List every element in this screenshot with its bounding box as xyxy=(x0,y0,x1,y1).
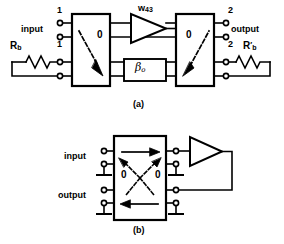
input-label-b: input xyxy=(64,152,86,161)
beta-label: βo xyxy=(135,62,146,74)
output-label-a: output xyxy=(231,25,259,34)
amplifier-triangle-a xyxy=(131,14,166,43)
figure-container: 1 1 input 2 2 output Rb R′b 0 0 βo w43 (… xyxy=(0,0,284,244)
terminal-b-in-top xyxy=(101,148,106,153)
right-nullor-block xyxy=(176,14,214,86)
terminal-b-out-top xyxy=(101,187,106,192)
terminal-label-in-top: 1 xyxy=(57,6,62,15)
zero-label-left-block: 0 xyxy=(97,30,103,40)
wire-rbp-loop xyxy=(229,62,270,76)
terminal-out1 xyxy=(223,20,228,25)
terminal-rb-top xyxy=(57,59,62,64)
terminal-rbp-top xyxy=(223,59,228,64)
caption-a: (a) xyxy=(133,100,144,109)
terminal-b-r-2 xyxy=(173,161,178,166)
terminal-b-out-bottom xyxy=(101,200,106,205)
ground-icon-left-input xyxy=(97,167,111,175)
terminal-rbp-bottom xyxy=(223,73,228,78)
terminal-b-in-bottom xyxy=(101,161,106,166)
zero-label-b-right: 0 xyxy=(155,170,161,180)
wire-rb-loop xyxy=(12,62,57,76)
ground-icon-right-lower xyxy=(169,206,183,214)
caption-b: (b) xyxy=(133,226,145,235)
ground-icon-left-output xyxy=(97,206,111,214)
zero-label-b-left: 0 xyxy=(121,170,127,180)
input-label-a: input xyxy=(21,25,43,34)
resistor-label-rb-prime: R′b xyxy=(243,41,256,51)
ground-icon-right-upper xyxy=(169,167,183,175)
terminal-rb-bottom xyxy=(57,73,62,78)
terminal-in1 xyxy=(57,20,62,25)
amplifier-gain-label: w43 xyxy=(138,4,153,13)
terminal-b-r-top xyxy=(173,148,178,153)
circuit-diagram-svg xyxy=(0,0,284,244)
resistor-label-rb: Rb xyxy=(10,41,22,51)
output-label-b: output xyxy=(58,191,86,200)
resistor-rb-zigzag xyxy=(26,56,57,68)
terminal-b-r-3 xyxy=(173,187,178,192)
terminal-b-r-4 xyxy=(173,200,178,205)
terminal-label-out-top: 2 xyxy=(228,6,233,15)
terminal-label-in-bottom: 1 xyxy=(57,40,62,49)
zero-label-right-block: 0 xyxy=(186,30,192,40)
left-nullor-block xyxy=(72,14,110,86)
terminal-label-out-bottom: 2 xyxy=(228,40,233,49)
resistor-rbp-zigzag xyxy=(236,56,270,68)
amplifier-triangle-b xyxy=(190,137,222,166)
